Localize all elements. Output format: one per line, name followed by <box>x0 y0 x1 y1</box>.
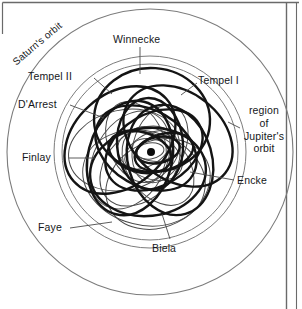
label-jupiter-region-line3: Jupiter's <box>240 130 288 143</box>
label-encke: Encke <box>237 174 267 186</box>
label-tempel-ii: Tempel II <box>28 70 72 82</box>
label-finlay: Finlay <box>22 151 51 163</box>
label-winnecke: Winnecke <box>113 33 160 45</box>
sun-dot <box>147 148 155 156</box>
label-faye: Faye <box>38 221 62 233</box>
label-biela: Biela <box>152 242 176 254</box>
label-darrest: D'Arrest <box>18 98 57 110</box>
label-jupiter-region-line2: of <box>240 117 288 130</box>
label-jupiter-region: region of Jupiter's orbit <box>240 104 288 155</box>
label-jupiter-region-line4: orbit <box>240 142 288 155</box>
label-jupiter-region-line1: region <box>240 104 288 117</box>
label-tempel-i: Tempel I <box>198 74 239 86</box>
